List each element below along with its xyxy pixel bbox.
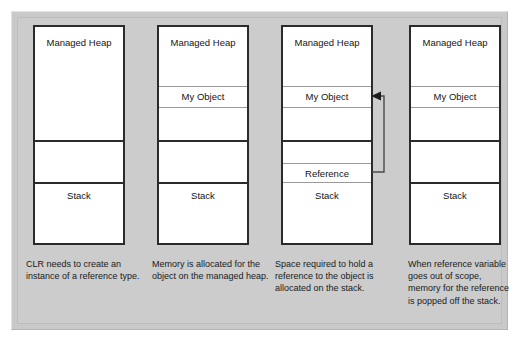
caption-step-4: When reference variable goes out of scop… <box>408 258 512 307</box>
heap-stack-divider <box>159 140 247 142</box>
stack-top-divider <box>35 182 123 184</box>
caption-step-2: Memory is allocated for the object on th… <box>152 258 270 282</box>
heap-stack-divider <box>283 140 371 142</box>
heap-stack-divider <box>35 140 123 142</box>
stack-label: Stack <box>35 190 123 202</box>
stack-label: Stack <box>283 190 371 202</box>
heap-stack-divider <box>411 140 499 142</box>
object-cell-bottom-divider <box>283 107 371 108</box>
my-object-label: My Object <box>159 91 247 103</box>
memory-allocation-diagram: Managed Heap Stack Managed Heap My Objec… <box>0 0 522 346</box>
managed-heap-label: Managed Heap <box>159 37 247 49</box>
reference-cell-top-divider <box>283 163 371 164</box>
memory-column-step-3: Managed Heap My Object Reference Stack <box>281 25 373 245</box>
object-cell-bottom-divider <box>411 107 499 108</box>
stack-top-divider <box>411 182 499 184</box>
object-cell-top-divider <box>159 86 247 87</box>
reference-label: Reference <box>283 168 371 180</box>
my-object-label: My Object <box>411 91 499 103</box>
my-object-label: My Object <box>283 91 371 103</box>
memory-column-step-2: Managed Heap My Object Stack <box>157 25 249 245</box>
stack-label: Stack <box>411 190 499 202</box>
memory-column-step-1: Managed Heap Stack <box>33 25 125 245</box>
caption-step-3: Space required to hold a reference to th… <box>275 258 401 295</box>
managed-heap-label: Managed Heap <box>411 37 499 49</box>
memory-column-step-4: Managed Heap My Object Stack <box>409 25 501 245</box>
stack-label: Stack <box>159 190 247 202</box>
object-cell-top-divider <box>283 86 371 87</box>
stack-top-divider <box>159 182 247 184</box>
reference-cell-bottom-divider <box>283 182 371 183</box>
object-cell-top-divider <box>411 86 499 87</box>
caption-step-1: CLR needs to create an instance of a ref… <box>26 258 144 282</box>
managed-heap-label: Managed Heap <box>35 37 123 49</box>
managed-heap-label: Managed Heap <box>283 37 371 49</box>
object-cell-bottom-divider <box>159 107 247 108</box>
